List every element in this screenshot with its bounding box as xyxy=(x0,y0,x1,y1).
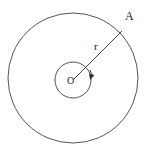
point-a-label: A xyxy=(125,9,134,23)
center-label: O xyxy=(67,75,74,86)
radius-line xyxy=(73,31,122,80)
radius-label: r xyxy=(94,40,98,52)
diagram-canvas: A r O xyxy=(0,0,147,148)
